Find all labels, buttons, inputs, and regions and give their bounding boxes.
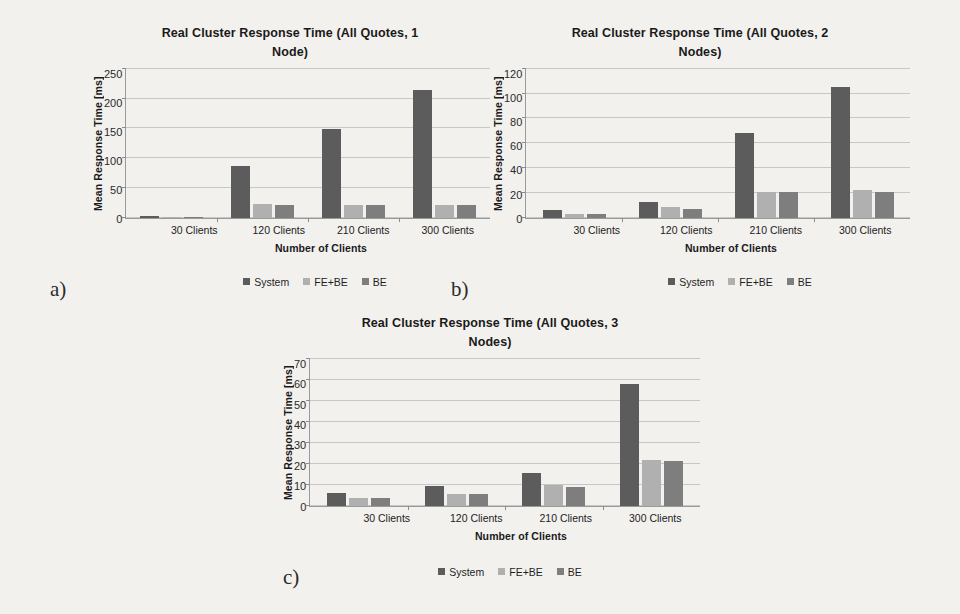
bar-group — [399, 69, 490, 218]
legend-swatch-icon — [668, 278, 675, 285]
legend-label: System — [254, 276, 289, 288]
x-axis-ticks-b: 30 Clients120 Clients210 Clients300 Clie… — [490, 224, 910, 236]
bar — [543, 210, 562, 217]
bar — [620, 384, 639, 506]
x-tick-label: 120 Clients — [237, 224, 322, 236]
bar — [371, 498, 390, 505]
bar — [661, 207, 680, 218]
y-axis-label-b: Mean Response Time [ms] — [490, 69, 504, 219]
plot-canvas-c — [309, 359, 700, 507]
chart-title-line-2: Nodes) — [309, 333, 670, 352]
chart-title-a: Real Cluster Response Time (All Quotes, … — [118, 24, 462, 63]
bar — [469, 494, 488, 506]
legend-item: System — [438, 566, 484, 578]
chart-legend-b: SystemFE+BEBE — [490, 276, 910, 288]
legend-swatch-icon — [362, 278, 369, 285]
x-axis-ticks-a: 30 Clients120 Clients210 Clients300 Clie… — [90, 224, 490, 236]
plot-area-a: Mean Response Time [ms] 250200150100500 — [90, 69, 490, 219]
legend-label: FE+BE — [509, 566, 543, 578]
bar-group — [310, 359, 407, 506]
bar-group — [526, 69, 622, 218]
legend-label: FE+BE — [739, 276, 773, 288]
bar-group — [814, 69, 910, 218]
legend-item: BE — [557, 566, 582, 578]
y-axis-ticks-b: 120100806040200 — [504, 69, 525, 219]
chart-title-line-1: Real Cluster Response Time (All Quotes, … — [309, 314, 670, 333]
plot-area-c: Mean Response Time [ms] 706050403020100 — [280, 359, 700, 507]
bar-group — [408, 359, 505, 506]
x-axis-label-a: Number of Clients — [90, 242, 490, 254]
bar — [522, 473, 541, 506]
plot-canvas-b — [525, 69, 910, 219]
bar — [413, 90, 432, 218]
bar-container — [126, 69, 490, 218]
bar — [327, 493, 346, 506]
x-tick-label: 30 Clients — [152, 224, 237, 236]
bar — [757, 192, 776, 218]
bar — [544, 485, 563, 506]
bar — [457, 205, 476, 218]
legend-item: System — [668, 276, 714, 288]
plot-canvas-a — [125, 69, 490, 219]
bar — [435, 205, 454, 218]
bar-group — [718, 69, 814, 218]
legend-label: BE — [798, 276, 812, 288]
legend-item: FE+BE — [303, 276, 348, 288]
bar — [642, 460, 661, 506]
y-axis-label-c: Mean Response Time [ms] — [280, 359, 294, 507]
bar — [349, 498, 368, 505]
legend-item: FE+BE — [498, 566, 543, 578]
legend-label: System — [449, 566, 484, 578]
legend-item: BE — [787, 276, 812, 288]
plot-area-b: Mean Response Time [ms] 120100806040200 — [490, 69, 910, 219]
bar — [275, 205, 294, 218]
bar-container — [526, 69, 910, 218]
legend-item: FE+BE — [728, 276, 773, 288]
panel-caption-b: b) — [451, 277, 469, 302]
chart-panel-a: Real Cluster Response Time (All Quotes, … — [90, 24, 490, 309]
bar — [140, 216, 159, 218]
bar — [425, 486, 444, 506]
bar — [875, 192, 894, 218]
legend-label: BE — [568, 566, 582, 578]
bar — [587, 214, 606, 218]
x-tick-label: 300 Clients — [406, 224, 491, 236]
bar — [779, 192, 798, 218]
bar-group — [308, 69, 399, 218]
bar — [639, 202, 658, 218]
bar — [253, 204, 272, 218]
bar — [447, 494, 466, 506]
legend-label: System — [679, 276, 714, 288]
x-tick-label: 210 Clients — [321, 224, 406, 236]
bar-group — [126, 69, 217, 218]
bar — [683, 209, 702, 218]
legend-swatch-icon — [787, 278, 794, 285]
chart-legend-a: SystemFE+BEBE — [90, 276, 490, 288]
chart-title-line-1: Real Cluster Response Time (All Quotes, … — [118, 24, 462, 43]
legend-item: System — [243, 276, 289, 288]
bar — [565, 214, 584, 218]
legend-swatch-icon — [303, 278, 310, 285]
x-tick-label: 120 Clients — [432, 512, 522, 524]
x-tick-label: 210 Clients — [731, 224, 821, 236]
x-axis-label-c: Number of Clients — [280, 530, 700, 542]
legend-swatch-icon — [243, 278, 250, 285]
x-tick-label: 120 Clients — [642, 224, 732, 236]
x-tick-label: 30 Clients — [342, 512, 432, 524]
legend-swatch-icon — [498, 568, 505, 575]
legend-item: BE — [362, 276, 387, 288]
chart-title-c: Real Cluster Response Time (All Quotes, … — [309, 314, 670, 353]
bar — [366, 205, 385, 218]
legend-label: FE+BE — [314, 276, 348, 288]
chart-title-line-2: Node) — [118, 43, 462, 62]
bar — [664, 461, 683, 506]
y-axis-label-a: Mean Response Time [ms] — [90, 69, 104, 219]
y-axis-ticks-a: 250200150100500 — [104, 69, 125, 219]
x-axis-ticks-c: 30 Clients120 Clients210 Clients300 Clie… — [280, 512, 700, 524]
bar — [231, 166, 250, 218]
bar-group — [622, 69, 718, 218]
bar-group — [603, 359, 700, 506]
chart-title-line-2: Nodes) — [519, 43, 880, 62]
bar — [735, 133, 754, 217]
x-tick-label: 300 Clients — [611, 512, 701, 524]
